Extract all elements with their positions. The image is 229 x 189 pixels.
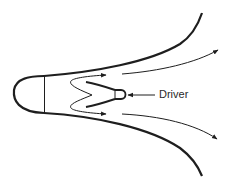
- driver-housing-lower-wall: [86, 99, 115, 107]
- rear-chamber-cap: [14, 76, 44, 113]
- driver-housing-upper-wall: [86, 82, 115, 90]
- folded-horn-diagram: [0, 0, 229, 189]
- horn-bell-upper-wall: [44, 13, 202, 76]
- output-flow-lower-arrow: [122, 114, 217, 139]
- driver-capsule: [115, 90, 126, 99]
- folded-path-lower-arrow: [71, 95, 106, 114]
- driver-label: Driver: [159, 87, 188, 101]
